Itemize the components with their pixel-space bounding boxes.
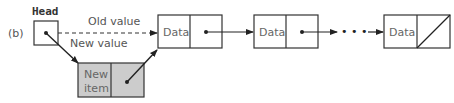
linked-list-diagram: (b) Head Old value New value New item Da…	[0, 0, 454, 103]
head-label: Head	[32, 5, 59, 18]
node-data-label: Data	[163, 26, 189, 39]
ellipsis: • • •	[341, 25, 367, 38]
new-item-label-line2: item	[84, 82, 109, 95]
new-value-label: New value	[70, 37, 128, 50]
new-item-label-line1: New	[84, 68, 108, 81]
old-value-label: Old value	[88, 15, 140, 28]
list-node-last: Data	[384, 15, 450, 48]
node-data-label: Data	[389, 26, 415, 39]
node-data-label: Data	[259, 26, 285, 39]
new-item-node: New item	[78, 63, 144, 97]
part-label: (b)	[8, 27, 24, 40]
